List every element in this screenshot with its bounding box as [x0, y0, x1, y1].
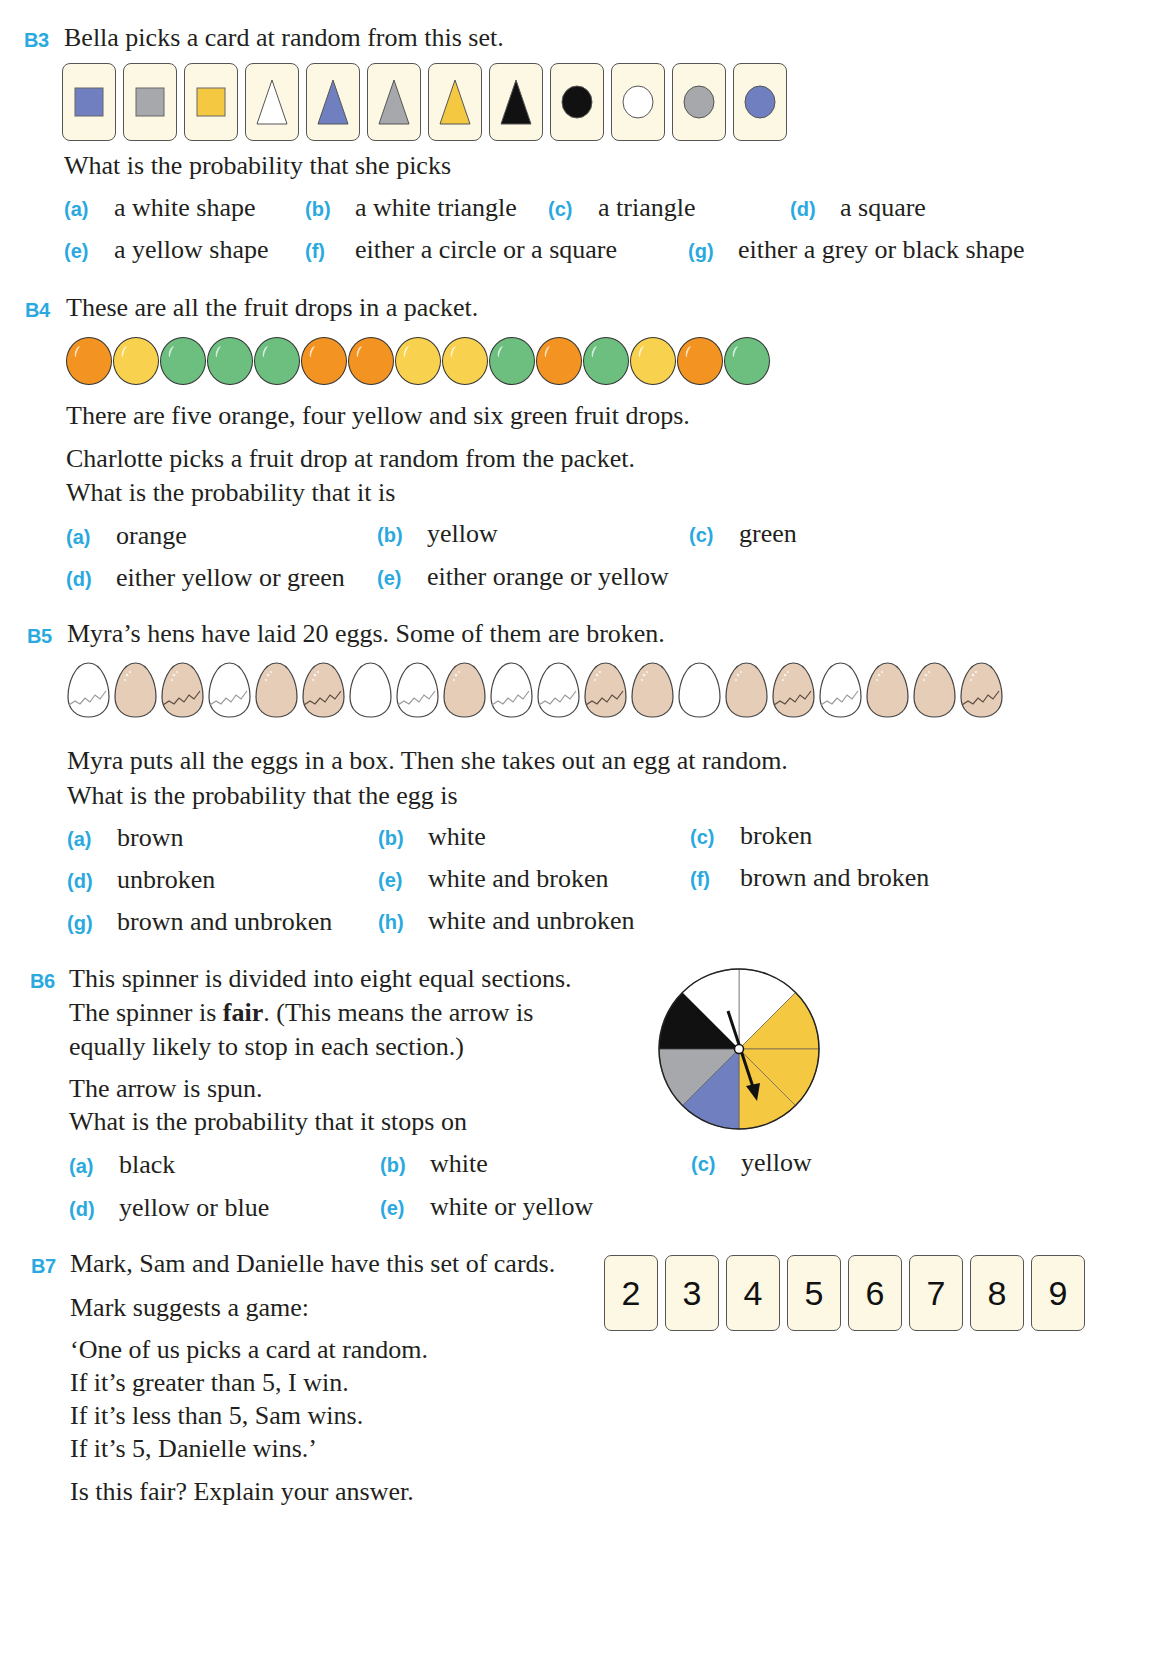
green-fruit-drop-icon [160, 337, 206, 385]
broken-white-egg-icon [66, 661, 111, 719]
option-label: (g) [67, 907, 117, 939]
info-text: Charlotte picks a fruit drop at random f… [66, 443, 635, 475]
option-text: either yellow or green [116, 563, 345, 592]
question-intro: These are all the fruit drops in a packe… [66, 292, 478, 324]
option-label: (c) [548, 193, 598, 225]
number-card-set: 23456789 [604, 1255, 1085, 1331]
option-c: (c)green [689, 518, 797, 551]
orange-fruit-drop-icon [301, 337, 347, 385]
fruit-drop-row [66, 337, 770, 385]
option-label: (h) [378, 906, 428, 938]
question-intro: Bella picks a card at random from this s… [64, 22, 504, 54]
brown-egg-icon [442, 661, 487, 719]
option-a: (a)black [69, 1149, 175, 1182]
brown-egg-icon [724, 661, 769, 719]
blue-square-icon [64, 74, 114, 130]
option-text: brown and unbroken [117, 907, 332, 936]
option-g: (g)either a grey or black shape [688, 234, 1025, 267]
option-b: (b)white [378, 821, 486, 854]
grey-circle-icon [674, 74, 724, 130]
option-label: (d) [69, 1193, 119, 1225]
orange-fruit-drop-icon [348, 337, 394, 385]
option-a: (a)orange [66, 520, 187, 553]
option-text: either a circle or a square [355, 235, 617, 264]
number-card-4: 4 [726, 1255, 780, 1331]
option-e: (e)either orange or yellow [377, 561, 669, 594]
yellow-fruit-drop-icon [395, 337, 441, 385]
quote-text: If it’s greater than 5, I win. [70, 1367, 349, 1399]
option-label: (b) [378, 822, 428, 854]
option-text: yellow [427, 519, 498, 548]
option-a: (a)a white shape [64, 192, 256, 225]
option-label: (c) [689, 519, 739, 551]
option-label: (b) [377, 519, 427, 551]
question-number: B3 [24, 29, 49, 52]
question-text: Is this fair? Explain your answer. [70, 1476, 414, 1508]
option-text: a white triangle [355, 193, 517, 222]
shape-card-set [62, 63, 787, 141]
question-number: B6 [30, 970, 55, 993]
info-text: This spinner is divided into eight equal… [69, 963, 572, 995]
brown-egg-icon [912, 661, 957, 719]
broken-brown-egg-icon [301, 661, 346, 719]
option-d: (d)unbroken [67, 864, 215, 897]
green-fruit-drop-icon [583, 337, 629, 385]
option-text: a triangle [598, 193, 695, 222]
option-h: (h)white and unbroken [378, 905, 635, 938]
green-fruit-drop-icon [724, 337, 770, 385]
spinner-diagram [655, 965, 823, 1133]
option-text: white [430, 1149, 488, 1178]
info-text: Myra puts all the eggs in a box. Then sh… [67, 745, 788, 777]
option-d: (d)yellow or blue [69, 1192, 269, 1225]
option-text: a square [840, 193, 926, 222]
number-card-9: 9 [1031, 1255, 1085, 1331]
white-triangle-icon [247, 74, 297, 130]
broken-white-egg-icon [536, 661, 581, 719]
number-card-7: 7 [909, 1255, 963, 1331]
question-number: B5 [27, 625, 52, 648]
option-label: (b) [305, 193, 355, 225]
fair-emphasis: fair [223, 998, 263, 1027]
broken-white-egg-icon [489, 661, 534, 719]
option-text: green [739, 519, 797, 548]
shape-card [672, 63, 726, 141]
broken-white-egg-icon [395, 661, 440, 719]
shape-card [245, 63, 299, 141]
broken-brown-egg-icon [583, 661, 628, 719]
shape-card [62, 63, 116, 141]
text-part: . (This means the arrow is [263, 998, 533, 1027]
info-text: The spinner is fair. (This means the arr… [69, 997, 533, 1029]
egg-row [66, 661, 1004, 719]
option-text: a yellow shape [114, 235, 269, 264]
option-label: (a) [64, 193, 114, 225]
option-b: (b)yellow [377, 518, 498, 551]
text-part: The spinner is [69, 998, 223, 1027]
shape-card [306, 63, 360, 141]
option-label: (e) [380, 1192, 430, 1224]
yellow-square-icon [186, 74, 236, 130]
option-f: (f)either a circle or a square [305, 234, 617, 267]
broken-white-egg-icon [818, 661, 863, 719]
black-triangle-icon [491, 74, 541, 130]
option-label: (d) [66, 563, 116, 595]
option-label: (a) [67, 823, 117, 855]
blue-circle-icon [735, 74, 785, 130]
option-text: broken [740, 821, 812, 850]
info-text: The arrow is spun. [69, 1073, 263, 1105]
brown-egg-icon [113, 661, 158, 719]
grey-triangle-icon [369, 74, 419, 130]
option-text: brown [117, 823, 183, 852]
option-text: unbroken [117, 865, 215, 894]
option-text: black [119, 1150, 175, 1179]
green-fruit-drop-icon [254, 337, 300, 385]
option-g: (g)brown and unbroken [67, 906, 332, 939]
number-card-5: 5 [787, 1255, 841, 1331]
quote-text: If it’s 5, Danielle wins.’ [70, 1433, 317, 1465]
orange-fruit-drop-icon [536, 337, 582, 385]
option-c: (c)yellow [691, 1147, 812, 1180]
option-c: (c)a triangle [548, 192, 695, 225]
shape-card [550, 63, 604, 141]
shape-card [184, 63, 238, 141]
white-egg-icon [677, 661, 722, 719]
number-card-3: 3 [665, 1255, 719, 1331]
